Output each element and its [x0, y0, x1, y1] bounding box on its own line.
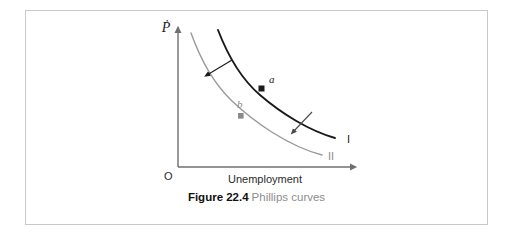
- phillips-curve-I: [218, 30, 335, 138]
- data-point-b-label: b: [237, 98, 243, 110]
- data-point-a-marker: [259, 86, 265, 92]
- data-point-a-label: a: [269, 73, 275, 85]
- shift-arrow-lower: [293, 112, 312, 132]
- origin-label: O: [164, 170, 173, 182]
- figure-container: Ṗ O Unemployment a b I II Figure 22.4Ph…: [0, 0, 514, 239]
- shift-arrow-upper: [207, 60, 232, 75]
- curve-label-I: I: [347, 133, 350, 145]
- x-axis-label: Unemployment: [228, 173, 302, 185]
- data-point-b-marker: [238, 113, 244, 119]
- figure-caption: Figure 22.4Phillips curves: [25, 190, 488, 204]
- y-axis-label: Ṗ: [161, 20, 171, 35]
- curve-label-II: II: [328, 150, 334, 162]
- figure-caption-number: Figure 22.4: [188, 191, 249, 203]
- figure-caption-title: Phillips curves: [252, 191, 326, 203]
- phillips-curve-II: [191, 33, 322, 155]
